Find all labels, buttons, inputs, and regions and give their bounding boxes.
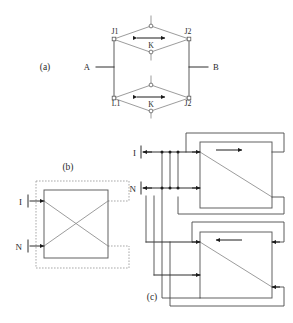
node-j2-marker [187,37,191,41]
upper-k-label: K [148,41,154,50]
upper-diamond-top-node [149,24,153,28]
node-j2-label: J2 [185,27,192,36]
panel-c-junction-5 [169,187,172,190]
node-j1-marker [112,37,116,41]
node-j2-lower-label: J2 [185,99,192,108]
panel-b-group [28,181,129,268]
panel-c-bottom-wrap-lower [170,242,284,306]
panel-c-junction-6 [177,187,180,190]
panel-b-label: (b) [62,162,73,173]
panel-b-input-n-label: N [16,242,23,252]
terminal-b-label: B [213,62,219,72]
panel-c-input-i-label: I [133,148,136,158]
panel-c-top-wrap-upper [186,133,284,152]
node-j1-label: J1 [112,27,119,36]
panel-c-group [141,133,284,306]
lower-k-label: K [148,100,154,109]
panel-a-label: (a) [40,62,51,73]
lower-diamond-bottom-node [149,109,153,113]
panel-c-junction-2 [169,151,172,154]
panel-b-feedback-upper [36,181,129,201]
panel-c-input-n-label: N [130,184,137,194]
panel-c-bus-1 [162,152,200,298]
lower-diamond-top-node [149,83,153,87]
terminal-a-label: A [84,62,91,72]
node-l1-label: L1 [112,99,121,108]
figure-canvas: (a) (b) (c) A B J1 J2 K L1 J2 K I N I N [0,0,293,323]
panel-c-junction-4 [161,187,164,190]
panel-c-junction-3 [177,151,180,154]
panel-c-bottom-diagonal [200,242,272,287]
figure-container: (a) (b) (c) A B J1 J2 K L1 J2 K I N I N [0,0,293,323]
panel-c-top-wrap-lower [178,197,284,214]
panel-b-feedback-lower [36,181,129,268]
upper-diamond-bottom-node [149,50,153,54]
panel-c-junction-1 [161,151,164,154]
panel-c-label: (c) [147,292,158,303]
panel-c-top-diagonal [200,152,272,197]
panel-b-input-i-label: I [19,197,22,207]
